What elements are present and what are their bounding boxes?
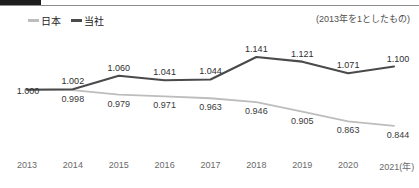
data-label-company-2020: 1.071 (337, 61, 360, 70)
x-tick-2016: 2016 (155, 160, 175, 170)
data-label-japan-2018: 0.946 (245, 107, 268, 116)
data-label-japan-2016: 0.971 (153, 101, 176, 110)
data-label-company-2013: 1.000 (17, 86, 40, 95)
chart-annotation-note: (2013年を1としたもの) (316, 12, 410, 25)
x-tick-2017: 2017 (200, 160, 220, 170)
data-label-company-2019: 1.121 (291, 49, 314, 58)
x-tick-2021: 2021(年) (379, 160, 414, 173)
x-tick-2019: 2019 (292, 160, 312, 170)
x-axis-labels: 201320142015201620172018201920202021(年) (0, 160, 419, 180)
data-label-company-2021: 1.100 (387, 54, 410, 63)
data-label-company-2018: 1.141 (245, 45, 268, 54)
data-label-japan-2020: 0.863 (337, 126, 360, 135)
chart-page: 日本当社 (2013年を1としたもの) 1.0001.0021.0601.041… (0, 0, 419, 188)
x-tick-2015: 2015 (109, 160, 129, 170)
data-label-japan-2019: 0.905 (291, 116, 314, 125)
legend-line-icon-company (71, 19, 82, 22)
x-tick-2014: 2014 (63, 160, 83, 170)
data-label-company-2016: 1.041 (153, 68, 176, 77)
chart-plot-area: 1.0001.0021.0601.0411.0441.1411.1211.071… (0, 26, 419, 154)
data-label-japan-2014: 0.998 (62, 95, 85, 104)
data-label-company-2014: 1.002 (62, 77, 85, 86)
data-label-japan-2021: 0.844 (387, 130, 410, 139)
x-tick-2018: 2018 (246, 160, 266, 170)
x-tick-2020: 2020 (338, 160, 358, 170)
legend-line-icon-japan (28, 19, 39, 21)
x-tick-2013: 2013 (17, 160, 37, 170)
data-label-company-2015: 1.060 (107, 63, 130, 72)
header-rule (0, 5, 419, 6)
data-label-japan-2017: 0.963 (199, 103, 222, 112)
data-label-company-2017: 1.044 (199, 67, 222, 76)
data-label-japan-2015: 0.979 (107, 99, 130, 108)
